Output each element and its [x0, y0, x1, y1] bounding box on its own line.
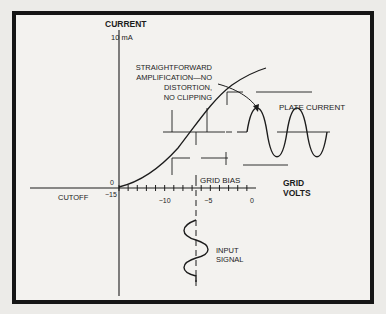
annotation-line: NO CLIPPING	[164, 93, 213, 102]
annotation-line: STRAIGHTFORWARD	[136, 63, 213, 72]
x-tick-label: −5	[204, 197, 212, 204]
cutoff-label: CUTOFF	[58, 193, 89, 202]
tube-characteristic-diagram: −15−10−50 CURRENT 10 mA 0 CUTOFF GRID BI…	[0, 0, 386, 314]
origin-y-label: 0	[110, 179, 114, 186]
x-tick-label: −15	[105, 191, 117, 198]
x-axis-title-line2: VOLTS	[283, 188, 311, 198]
arrow-head	[253, 104, 259, 112]
annotation-line: DISTORTION,	[164, 83, 212, 92]
annotation-line: AMPLIFICATION—NO	[136, 73, 212, 82]
x-tick-label: −10	[159, 197, 171, 204]
annotation-arrow	[218, 84, 257, 108]
input-signal-label-line1: INPUT	[216, 246, 239, 255]
x-axis-title-line1: GRID	[283, 178, 304, 188]
input-signal-label-line2: SIGNAL	[216, 255, 244, 264]
plate-current-label: PLATE CURRENT	[279, 103, 345, 112]
y-axis-title: CURRENT	[105, 19, 147, 29]
x-tick-label: 0	[250, 197, 254, 204]
grid-bias-label: GRID BIAS	[200, 176, 240, 185]
annotation-text: STRAIGHTFORWARDAMPLIFICATION—NODISTORTIO…	[136, 63, 213, 102]
y-axis-max-label: 10 mA	[111, 33, 133, 42]
